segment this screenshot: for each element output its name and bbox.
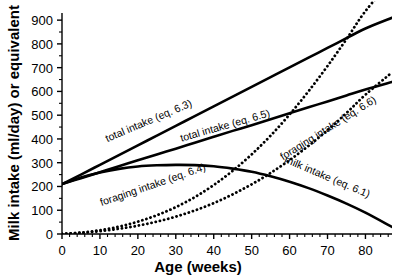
y-axis-tick-labels: 0100200300400500600700800900 [31,13,53,242]
chart-figure: Milk intake (ml/day) or equivalent Age (… [0,0,400,279]
y-tick-label: 200 [31,179,53,194]
y-tick-label: 300 [31,156,53,171]
x-tick-label: 30 [169,243,183,258]
x-tick-label: 40 [206,243,220,258]
y-tick-label: 500 [31,108,53,123]
x-tick-label: 0 [58,243,65,258]
x-tick-label: 20 [131,243,145,258]
y-tick-label: 600 [31,84,53,99]
x-axis-title: Age (weeks) [154,258,242,275]
x-tick-label: 50 [244,243,258,258]
curve-label-group: total intake (eq. 6.3)total intake (eq. … [98,93,378,208]
x-axis-title-group: Age (weeks) [154,258,242,275]
x-axis-tick-labels: 01020304050607080 [58,243,372,258]
series-line [62,18,392,184]
curve-label: total intake (eq. 6.5) [179,107,272,144]
y-axis-title: Milk intake (ml/day) or equivalent [5,5,22,241]
y-tick-label: 0 [46,227,53,242]
x-tick-label: 80 [358,243,372,258]
x-tick-label: 10 [93,243,107,258]
curve-label: milk intake (eq. 6.1) [283,153,372,200]
x-tick-label: 70 [320,243,334,258]
y-axis-title-group: Milk intake (ml/day) or equivalent [5,5,22,241]
y-tick-label: 700 [31,61,53,76]
y-tick-label: 400 [31,132,53,147]
y-tick-label: 900 [31,13,53,28]
curve-label: foraging intake (eq. 6.6) [278,93,378,162]
chart-canvas: Milk intake (ml/day) or equivalent Age (… [0,0,400,279]
x-tick-label: 60 [282,243,296,258]
y-tick-label: 800 [31,37,53,52]
y-tick-label: 100 [31,203,53,218]
